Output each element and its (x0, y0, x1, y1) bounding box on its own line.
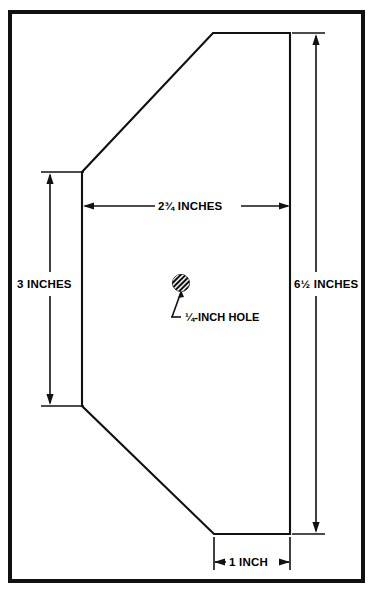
arrow-bottom-left (214, 559, 225, 566)
drawing-canvas: 6½ INCHES 3 INCHES 2¾ INCHES (0, 0, 373, 594)
label-bottom-width: 1 INCH (229, 556, 268, 568)
label-right-height: 6½ INCHES (294, 278, 359, 290)
arrow-left-bottom (46, 394, 53, 405)
label-top-width: 2¾ INCHES (158, 200, 223, 212)
label-hole: ¼-INCH HOLE (185, 311, 259, 323)
arrow-bottom-right (279, 559, 290, 566)
technical-drawing-svg: 6½ INCHES 3 INCHES 2¾ INCHES (0, 0, 373, 594)
arrow-right-bottom (312, 522, 319, 533)
arrow-right-top (312, 34, 319, 45)
label-left-height: 3 INCHES (17, 278, 72, 290)
arrow-left-top (46, 173, 53, 184)
